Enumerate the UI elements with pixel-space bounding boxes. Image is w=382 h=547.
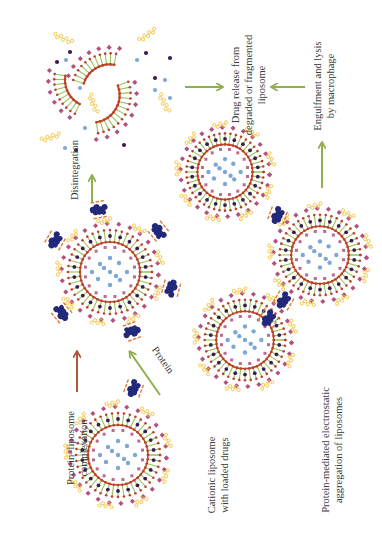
label-line: liposome xyxy=(255,20,268,150)
label-line: by macrophage xyxy=(324,26,337,146)
protein-icon xyxy=(88,200,109,220)
fragment-arc xyxy=(94,80,139,142)
label-aggregation: Protein-mediated electrostatic aggregati… xyxy=(319,365,345,535)
label-line: Disintegration xyxy=(68,125,81,215)
label-engulfment: Engulfment and lysis by macrophage xyxy=(311,26,337,146)
label-protein-liposome-complexation: Protein–liposome complexation xyxy=(64,393,90,503)
label-line: Drug release from xyxy=(229,20,242,150)
liposome-protein-complex xyxy=(56,217,165,326)
protein-icon xyxy=(122,377,145,400)
label-line: complexation xyxy=(77,393,90,503)
label-disintegration: Disintegration xyxy=(68,125,81,215)
label-line: aggregation of liposomes xyxy=(332,365,345,535)
protein-icon xyxy=(160,277,182,299)
label-line: Engulfment and lysis xyxy=(311,26,324,146)
label-drug-release: Drug release from degraded or fragmented… xyxy=(229,20,268,150)
liposome-aggregate-2 xyxy=(268,202,373,307)
label-line: with loaded drugs xyxy=(218,420,231,530)
protein-icon xyxy=(43,228,67,252)
label-cationic-liposome: Cationic liposome with loaded drugs xyxy=(205,420,231,530)
label-line: Protein–liposome xyxy=(64,393,77,503)
protein-icon xyxy=(146,219,171,244)
label-line: Cationic liposome xyxy=(205,420,218,530)
fragment-arc xyxy=(66,45,122,85)
label-line: Protein-mediated electrostatic xyxy=(319,365,332,535)
label-line: degraded or fragmented xyxy=(242,20,255,150)
